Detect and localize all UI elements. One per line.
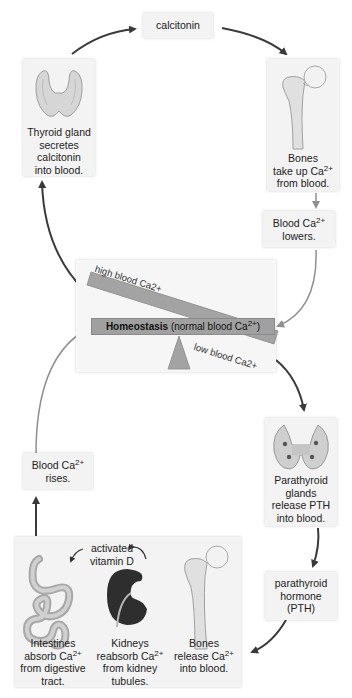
pth-text-1: parathyroid bbox=[265, 577, 337, 590]
homeostasis-bar: Homeostasis (normal blood Ca2+) bbox=[91, 318, 275, 335]
kidney-icon bbox=[107, 569, 147, 627]
pth-box: parathyroid hormone (PTH) bbox=[265, 572, 337, 620]
parathyroid-text-3: release PTH bbox=[265, 499, 337, 512]
parathyroid-box: Parathyroid glands release PTH into bloo… bbox=[265, 418, 337, 526]
intestines-icon bbox=[27, 559, 69, 645]
parathyroid-glands-icon bbox=[270, 421, 332, 477]
blood-rises-text-2: rises. bbox=[23, 472, 93, 485]
blood-rises-box: Blood Ca2+ rises. bbox=[23, 453, 93, 489]
kidneys-caption: Kidneys reabsorb Ca2+ from kidney tubule… bbox=[91, 637, 169, 687]
pth-text-2: hormone bbox=[265, 590, 337, 603]
bones-release-caption: Bones release Ca2+ into blood. bbox=[169, 637, 239, 675]
pth-text-3: (PTH) bbox=[265, 602, 337, 615]
parathyroid-text-4: into blood. bbox=[265, 512, 337, 525]
vitamin-d-arrow-right bbox=[133, 547, 146, 559]
vitamin-d-arrow-left bbox=[71, 549, 83, 561]
blood-rises-text-1: Blood Ca2+ bbox=[23, 459, 93, 472]
fulcrum-icon bbox=[168, 336, 190, 369]
femur-bone-icon bbox=[185, 546, 228, 649]
intestines-caption: Intestines absorb Ca2+ from digestive tr… bbox=[15, 637, 91, 687]
parathyroid-text-2: glands bbox=[265, 487, 337, 500]
effectors-panel: activated vitamin D Intestines absorb Ca… bbox=[15, 537, 241, 687]
parathyroid-text-1: Parathyroid bbox=[265, 474, 337, 487]
